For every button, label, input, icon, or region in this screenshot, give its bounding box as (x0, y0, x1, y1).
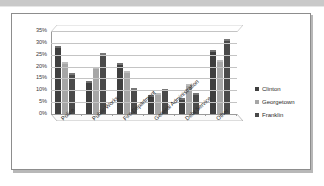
bar-face (93, 69, 99, 114)
page-canvas: 35%30%25%20%15%10%5%0% PolicePublic Work… (0, 0, 324, 186)
page-top-band-edge (0, 6, 324, 7)
bar-top-face (117, 63, 123, 65)
chart-figure-frame: 35%30%25%20%15%10%5%0% PolicePublic Work… (11, 13, 311, 170)
chart-plot-wrapper: 35%30%25%20%15%10%5%0% PolicePublic Work… (12, 14, 310, 169)
x-axis-category-labels: PolicePublic WorksFire DepartmentGeneral… (42, 115, 272, 167)
bar-top-face (55, 46, 61, 48)
legend-swatch-icon (255, 113, 259, 117)
bar-column[interactable] (93, 69, 99, 114)
gridline (51, 55, 237, 56)
legend-label: Franklin (262, 112, 283, 118)
gridline (51, 43, 237, 44)
bar-top-face (86, 81, 92, 83)
bar-column[interactable] (55, 48, 61, 114)
bar-top-face (62, 62, 68, 64)
bar-top-face (224, 39, 230, 41)
bar-face (86, 83, 92, 114)
bar-column[interactable] (217, 62, 223, 114)
bar-top-face (193, 93, 199, 95)
legend-swatch-icon (255, 100, 259, 104)
bar-face (217, 62, 223, 114)
legend-label: Clinton (262, 86, 281, 92)
legend-item-clinton[interactable]: Clinton (255, 82, 311, 95)
chart-legend: ClintonGeorgetownFranklin (255, 82, 311, 121)
y-axis-tick-label: 20% (36, 64, 47, 70)
legend-swatch-icon (255, 87, 259, 91)
bar-column[interactable] (86, 83, 92, 114)
bar-column[interactable] (210, 52, 216, 114)
bar-top-face (217, 60, 223, 62)
bar-face (55, 48, 61, 114)
y-axis-tick-label: 15% (36, 75, 47, 81)
gridline (51, 67, 237, 68)
y-axis-tick-label: 35% (36, 28, 47, 34)
bar-top-face (69, 73, 75, 75)
y-axis-tick-labels: 35%30%25%20%15%10%5%0% (21, 30, 47, 114)
legend-label: Georgetown (262, 99, 295, 105)
gridline (51, 90, 237, 91)
gridline (51, 31, 237, 32)
bar-top-face (124, 71, 130, 73)
legend-item-georgetown[interactable]: Georgetown (255, 95, 311, 108)
y-axis-tick-label: 30% (36, 40, 47, 46)
bar-top-face (210, 50, 216, 52)
legend-item-franklin[interactable]: Franklin (255, 108, 311, 121)
y-axis-tick-label: 5% (39, 99, 47, 105)
gridline (51, 78, 237, 79)
y-axis-tick-label: 25% (36, 52, 47, 58)
bar-face (210, 52, 216, 114)
y-axis-tick-label: 10% (36, 87, 47, 93)
